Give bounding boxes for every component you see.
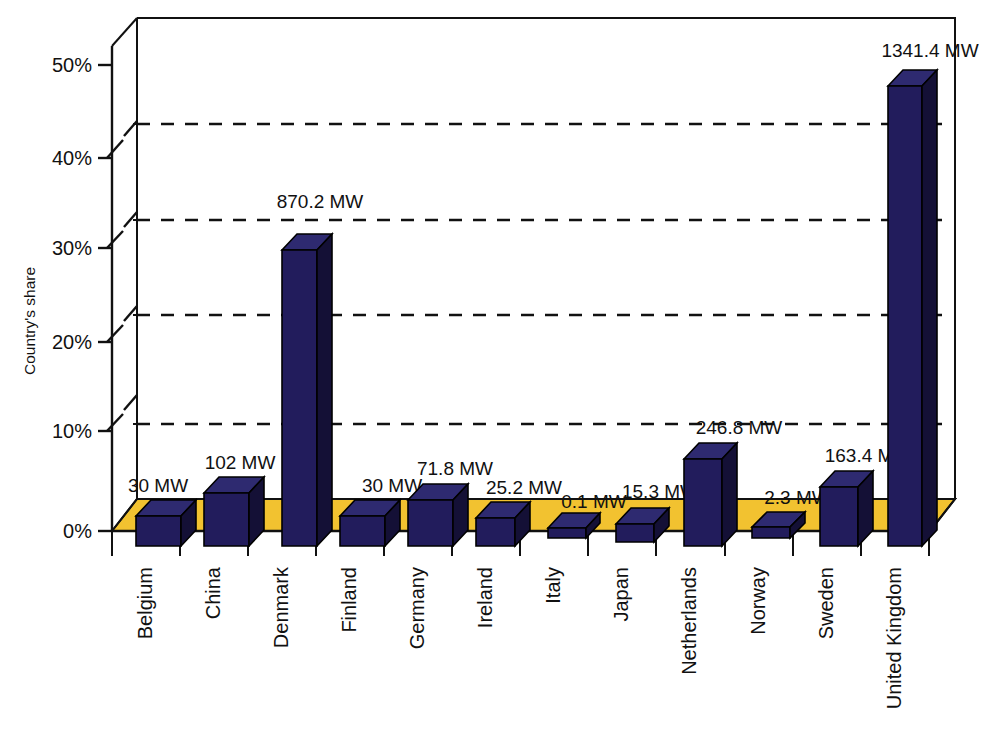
category-label-italy: Italy	[542, 567, 564, 604]
category-label-finland: Finland	[338, 567, 360, 633]
y-tick-label: 30%	[52, 237, 92, 259]
bar-value-label-belgium: 30 MW	[128, 475, 188, 496]
category-label-china: China	[202, 566, 224, 619]
bar-finland[interactable]	[340, 500, 400, 546]
y-tick-label: 50%	[52, 54, 92, 76]
y-axis-ticks	[98, 65, 112, 531]
bar-value-label-germany: 71.8 MW	[417, 458, 493, 479]
category-label-belgium: Belgium	[134, 567, 156, 639]
bar-value-label-finland: 30 MW	[362, 475, 422, 496]
bar-germany[interactable]	[408, 484, 468, 546]
category-label-denmark: Denmark	[270, 566, 292, 648]
bar-china[interactable]	[204, 477, 264, 546]
bar-denmark[interactable]	[282, 234, 332, 546]
bar-united-kingdom[interactable]	[888, 70, 937, 546]
bar-value-label-italy: 0.1 MW	[561, 491, 627, 512]
y-tick-label: 10%	[52, 420, 92, 442]
bar-belgium[interactable]	[136, 500, 196, 546]
category-label-norway: Norway	[747, 567, 769, 635]
y-tick-labels: 50% 40% 30% 20% 10% 0%	[52, 54, 92, 542]
category-label-united-kingdom: United Kingdom	[883, 567, 905, 709]
bar-value-label-united-kingdom: 1341.4 MW	[881, 40, 978, 61]
chart-canvas: 50% 40% 30% 20% 10% 0% Country's share	[0, 0, 996, 740]
bar-value-label-denmark: 870.2 MW	[277, 191, 364, 212]
bar-value-label-china: 102 MW	[205, 452, 276, 473]
plot-frame	[112, 18, 955, 499]
gridlines	[137, 124, 953, 424]
y-tick-label: 40%	[52, 147, 92, 169]
category-label-germany: Germany	[406, 567, 428, 649]
three-d-bar-chart: 50% 40% 30% 20% 10% 0% Country's share	[0, 0, 996, 740]
bar-ireland[interactable]	[476, 502, 530, 546]
category-label-netherlands: Netherlands	[678, 567, 700, 675]
y-axis	[98, 46, 137, 531]
x-category-labels: Belgium China Denmark Finland Germany Ir…	[134, 566, 905, 709]
y-axis-title: Country's share	[21, 267, 38, 375]
bar-value-label-ireland: 25.2 MW	[486, 477, 562, 498]
category-label-japan: Japan	[610, 567, 632, 622]
y-tick-label: 0%	[63, 520, 92, 542]
bar-value-label-netherlands: 246.8 MW	[696, 417, 783, 438]
category-label-sweden: Sweden	[815, 567, 837, 639]
bar-netherlands[interactable]	[684, 443, 737, 546]
category-label-ireland: Ireland	[474, 567, 496, 628]
y-tick-label: 20%	[52, 331, 92, 353]
bar-sweden[interactable]	[820, 471, 873, 546]
